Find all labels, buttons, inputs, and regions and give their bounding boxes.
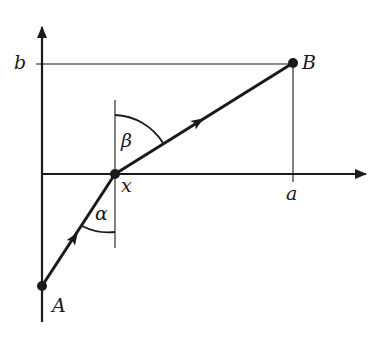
- label-beta: β: [121, 131, 132, 150]
- label-point-b: B: [302, 53, 316, 72]
- point-a: [37, 281, 47, 291]
- label-point-a: A: [52, 296, 66, 315]
- label-a-tick: a: [286, 184, 297, 203]
- alpha-angle-arc: [82, 226, 115, 232]
- label-b-tick: b: [14, 53, 26, 72]
- label-alpha: α: [95, 204, 108, 223]
- path-segment-a-to-x: [42, 174, 115, 286]
- path-segment-x-to-b: [115, 63, 293, 174]
- label-point-x: x: [121, 176, 132, 195]
- point-x: [110, 169, 120, 179]
- point-b: [288, 58, 298, 68]
